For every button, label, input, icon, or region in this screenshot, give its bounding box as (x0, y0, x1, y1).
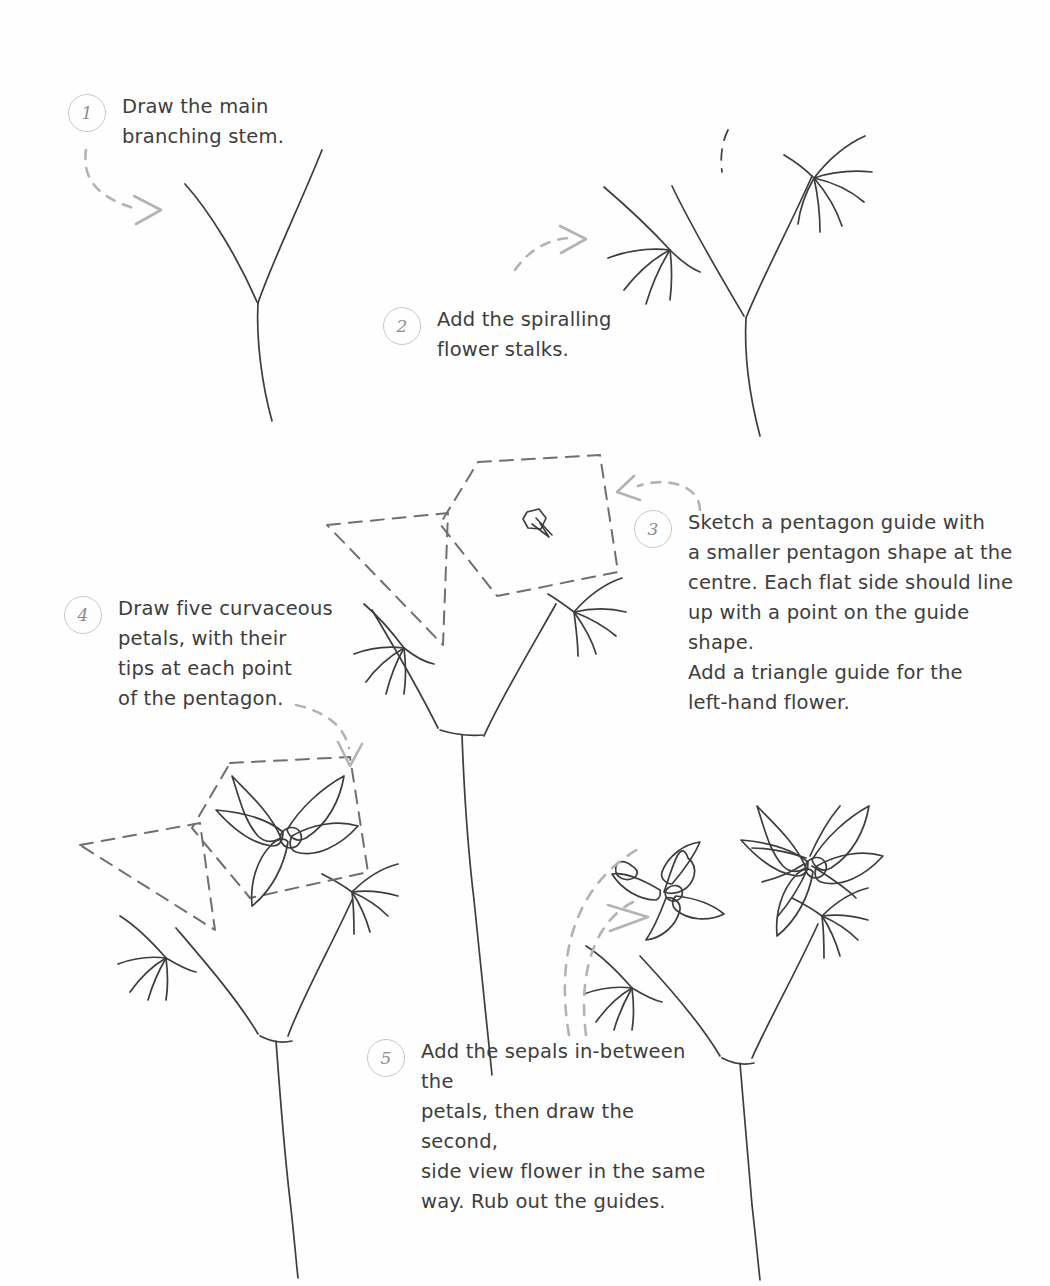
step4-flower-petals (216, 776, 358, 906)
step3-stem-drawing (354, 578, 626, 1075)
step5-left-stalk-cluster (584, 946, 662, 1030)
step4-left-stalk-cluster (118, 916, 196, 1000)
arrow-step5-head (608, 905, 648, 931)
step3-guide-shapes (327, 455, 618, 645)
step1-stem-drawing (185, 150, 322, 421)
step5-main-flower (741, 806, 883, 936)
step-number-badge: 3 (634, 510, 672, 548)
pentagon-guide (192, 757, 368, 898)
step-1-caption: 1 Draw the main branching stem. (68, 92, 352, 152)
step3-right-stalk-cluster (548, 578, 626, 656)
arrow-step3 (638, 482, 700, 510)
arrow-step2 (515, 238, 572, 270)
step2-left-stalk-cluster (604, 187, 700, 304)
arrow-step1 (85, 150, 140, 210)
arrow-step4-head (338, 742, 362, 766)
sepals (752, 806, 856, 916)
step-instruction-text: Draw five curvaceous petals, with their … (118, 594, 333, 714)
triangle-guide (327, 513, 448, 645)
arrow-step1-head (134, 196, 161, 224)
step4-right-stalk-cluster (322, 864, 398, 934)
step3-centre-pentagon-mark (523, 509, 552, 537)
tutorial-sheet: 1 Draw the main branching stem. 2 Add th… (0, 0, 1050, 1286)
step-instruction-text: Add the spiralling flower stalks. (437, 305, 652, 365)
step5-side-view-flower (612, 842, 724, 940)
step-instruction-text: Add the sepals in-between the petals, th… (421, 1037, 711, 1217)
step2-stem-drawing (604, 130, 872, 436)
arrow-step2-head (560, 226, 586, 253)
step4-stem-drawing (118, 864, 398, 1278)
step-instruction-text: Draw the main branching stem. (122, 92, 352, 152)
pentagon-guide (440, 455, 618, 596)
arrow-step3-head (617, 476, 640, 500)
flower-centre (280, 828, 301, 849)
flower-centre (805, 858, 826, 879)
step-3-caption: 3 Sketch a pentagon guide with a smaller… (634, 508, 1036, 718)
step-number-badge: 5 (367, 1039, 405, 1077)
step-2-caption: 2 Add the spiralling flower stalks. (383, 305, 652, 365)
arrow-step5 (565, 848, 642, 1035)
flower-centre (665, 886, 682, 902)
triangle-guide (80, 823, 215, 930)
step2-right-stalk-cluster (784, 136, 872, 232)
step-4-caption: 4 Draw five curvaceous petals, with thei… (64, 594, 333, 714)
step-5-caption: 5 Add the sepals in-between the petals, … (367, 1037, 711, 1217)
step-number-badge: 1 (68, 94, 106, 132)
step3-left-stalk-cluster (354, 604, 434, 694)
step-instruction-text: Sketch a pentagon guide with a smaller p… (688, 508, 1036, 718)
step-number-badge: 4 (64, 596, 102, 634)
step4-guide-shapes (80, 757, 368, 930)
step5-right-stalk-cluster (792, 888, 868, 958)
step-number-badge: 2 (383, 307, 421, 345)
